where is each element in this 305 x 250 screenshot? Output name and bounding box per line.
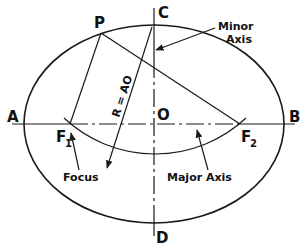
minor-axis-label-line2: Axis bbox=[226, 33, 252, 46]
point-label-p: P bbox=[94, 14, 105, 32]
major-axis-pointer bbox=[197, 130, 208, 170]
line-p-f1 bbox=[70, 33, 101, 124]
radius-label: R = AO bbox=[109, 74, 135, 119]
svg-text:2: 2 bbox=[250, 138, 257, 149]
svg-text:1: 1 bbox=[65, 138, 72, 149]
point-label-d: D bbox=[156, 229, 168, 247]
point-label-o: O bbox=[157, 106, 170, 124]
ellipse-diagram: A B C D O P F 1 F 2 R = AO Minor Axis Fo… bbox=[0, 0, 305, 250]
focus-pointer bbox=[71, 133, 79, 170]
point-label-c: C bbox=[158, 4, 169, 22]
point-label-f2: F 2 bbox=[241, 128, 257, 149]
point-label-b: B bbox=[289, 108, 300, 126]
minor-axis-label-line1: Minor bbox=[218, 20, 254, 33]
focus-label: Focus bbox=[63, 171, 99, 184]
point-label-f1: F 1 bbox=[56, 128, 72, 149]
minor-axis-pointer bbox=[156, 28, 215, 50]
point-label-a: A bbox=[7, 108, 19, 126]
major-axis-label: Major Axis bbox=[167, 171, 232, 184]
radius-line bbox=[107, 27, 152, 168]
